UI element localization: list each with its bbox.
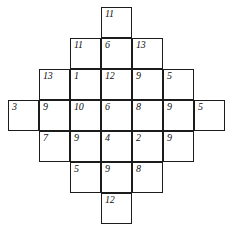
grid-cell-value: 11 [74, 39, 83, 50]
grid-cell-value: 8 [136, 101, 141, 112]
grid-cell-value: 1 [74, 70, 79, 81]
grid-cell-value: 3 [12, 101, 17, 112]
grid-cell: 4 [101, 131, 132, 162]
grid-layer: 11116131311295391068957942959812 [0, 0, 234, 247]
grid-cell-value: 12 [105, 194, 115, 205]
grid-cell-value: 13 [136, 39, 146, 50]
grid-cell-value: 8 [136, 163, 141, 174]
grid-cell: 9 [132, 69, 163, 100]
grid-cell-value: 6 [105, 101, 110, 112]
grid-cell-value: 12 [105, 70, 115, 81]
grid-cell-value: 13 [43, 70, 53, 81]
grid-cell-value: 9 [105, 163, 110, 174]
grid-cell-value: 5 [198, 101, 203, 112]
grid-cell-value: 4 [105, 132, 110, 143]
grid-cell: 10 [70, 100, 101, 131]
grid-cell-value: 5 [167, 70, 172, 81]
grid-cell-value: 2 [136, 132, 141, 143]
grid-cell: 2 [132, 131, 163, 162]
grid-cell: 12 [101, 193, 132, 224]
grid-cell: 8 [132, 162, 163, 193]
grid-cell: 12 [101, 69, 132, 100]
grid-cell: 9 [101, 162, 132, 193]
grid-cell: 11 [101, 7, 132, 38]
grid-cell-value: 10 [74, 101, 84, 112]
number-grid-diagram: 11116131311295391068957942959812 [0, 0, 234, 247]
grid-cell: 6 [101, 38, 132, 69]
grid-cell: 5 [163, 69, 194, 100]
grid-cell: 13 [39, 69, 70, 100]
grid-cell: 9 [163, 100, 194, 131]
grid-cell: 3 [8, 100, 39, 131]
grid-cell-value: 9 [167, 132, 172, 143]
grid-cell: 6 [101, 100, 132, 131]
grid-cell-value: 9 [43, 101, 48, 112]
grid-cell: 5 [194, 100, 225, 131]
grid-cell-value: 9 [74, 132, 79, 143]
grid-cell: 9 [39, 100, 70, 131]
grid-cell: 7 [39, 131, 70, 162]
grid-cell: 1 [70, 69, 101, 100]
grid-cell: 5 [70, 162, 101, 193]
grid-cell: 11 [70, 38, 101, 69]
grid-cell-value: 9 [136, 70, 141, 81]
grid-cell-value: 5 [74, 163, 79, 174]
grid-cell: 8 [132, 100, 163, 131]
grid-cell: 9 [163, 131, 194, 162]
grid-cell-value: 6 [105, 39, 110, 50]
grid-cell: 13 [132, 38, 163, 69]
grid-cell-value: 9 [167, 101, 172, 112]
grid-cell-value: 11 [105, 8, 114, 19]
grid-cell-value: 7 [43, 132, 48, 143]
grid-cell: 9 [70, 131, 101, 162]
